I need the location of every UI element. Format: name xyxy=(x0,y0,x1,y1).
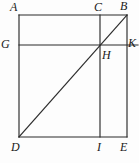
vertex-label-B: B xyxy=(120,0,127,12)
vertex-label-H: H xyxy=(102,49,111,61)
segment-diagonal-D-B xyxy=(19,15,127,137)
vertex-label-G: G xyxy=(1,38,10,50)
vertex-label-I: I xyxy=(97,141,101,153)
vertex-label-A: A xyxy=(10,1,17,13)
vertex-label-D: D xyxy=(11,141,20,153)
geometry-figure: A C B G H K D I E xyxy=(0,0,139,163)
vertex-label-E: E xyxy=(120,141,127,153)
figure-lines xyxy=(0,0,139,163)
vertex-label-C: C xyxy=(94,1,102,13)
vertex-label-K: K xyxy=(128,37,136,49)
